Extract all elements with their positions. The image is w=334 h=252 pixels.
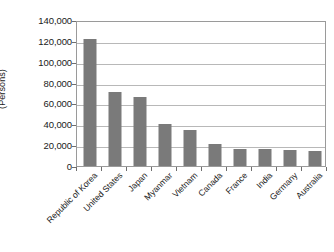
bar[interactable]: [83, 39, 96, 166]
bar-slot: [202, 22, 227, 166]
y-axis-tick-labels: 140,000120,000100,00080,00060,00040,0002…: [18, 0, 72, 252]
y-axis-title: (Persons): [0, 49, 7, 129]
bar[interactable]: [258, 149, 271, 166]
bar[interactable]: [133, 97, 146, 166]
plot-area: [76, 21, 326, 167]
x-axis-category-label: Australia: [294, 171, 324, 201]
x-axis-category-label: Canada: [196, 171, 223, 198]
bar-slot: [152, 22, 177, 166]
y-axis-tick-label: 40,000: [44, 120, 72, 130]
x-axis-category-label: Vietnam: [171, 171, 199, 199]
bar[interactable]: [158, 124, 171, 166]
bar-slot: [177, 22, 202, 166]
y-axis-tick-label: 20,000: [44, 141, 72, 151]
bar[interactable]: [183, 130, 196, 167]
bars-series: [77, 22, 325, 166]
bar-chart-figure: (Persons) 140,000120,000100,00080,00060,…: [0, 0, 334, 252]
x-axis-category-label: France: [224, 171, 249, 196]
bar[interactable]: [308, 151, 321, 166]
y-axis-tick-label: 80,000: [44, 79, 72, 89]
y-axis-tick-label: 100,000: [38, 58, 72, 68]
bar-slot: [277, 22, 302, 166]
x-axis-category-labels: Republic of KoreaUnited StatesJapanMyanm…: [76, 171, 326, 252]
bar[interactable]: [208, 144, 221, 166]
bar[interactable]: [108, 92, 121, 166]
y-axis-tick-label: 120,000: [38, 37, 72, 47]
bar-slot: [227, 22, 252, 166]
bar[interactable]: [283, 150, 296, 166]
bar-slot: [302, 22, 327, 166]
bar-slot: [127, 22, 152, 166]
y-axis-tick-label: 60,000: [44, 99, 72, 109]
x-axis-tick-mark: [326, 167, 327, 171]
x-axis-category-label: India: [254, 171, 273, 190]
bar-slot: [77, 22, 102, 166]
bar[interactable]: [233, 149, 246, 166]
y-axis-tick-label: 140,000: [38, 16, 72, 26]
bar-slot: [102, 22, 127, 166]
bar-slot: [252, 22, 277, 166]
